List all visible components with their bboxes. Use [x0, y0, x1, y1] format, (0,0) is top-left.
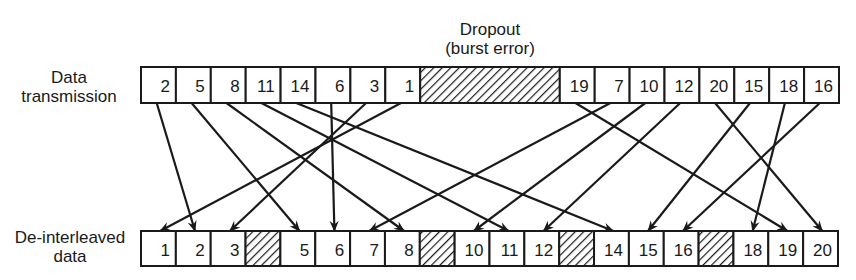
top-cell-value: 5 — [195, 77, 204, 96]
top-cell — [316, 67, 351, 103]
mapping-arrow-8 — [227, 103, 405, 231]
bottom-cell-value: 1 — [160, 241, 169, 260]
top-cell — [595, 67, 630, 103]
top-cell — [176, 67, 211, 103]
bottom-cell-value: 14 — [604, 241, 623, 260]
top-cell-value: 19 — [570, 77, 589, 96]
bottom-cell — [141, 231, 176, 266]
mapping-arrow-2 — [157, 103, 195, 231]
bottom-cell — [315, 231, 350, 266]
bottom-cell — [385, 231, 420, 266]
bottom-cell-value: 20 — [813, 241, 832, 260]
top-cell-value: 12 — [674, 77, 693, 96]
mapping-arrow-7 — [369, 103, 610, 231]
interleave-diagram: 2581114631197101220151816 12356781011121… — [0, 0, 856, 280]
mapping-arrow-14 — [296, 103, 613, 231]
mapping-arrow-20 — [715, 103, 822, 231]
bottom-cell-value: 12 — [534, 241, 553, 260]
bottom-cell-value: 11 — [501, 241, 519, 260]
mapping-arrow-10 — [474, 103, 645, 231]
top-cell-value: 7 — [614, 77, 623, 96]
top-cell-value: 16 — [814, 77, 833, 96]
mapping-arrows — [157, 103, 823, 231]
top-cell-value: 8 — [230, 77, 239, 96]
top-cell — [385, 67, 420, 103]
top-cell — [211, 67, 246, 103]
top-cell-value: 3 — [370, 77, 379, 96]
mapping-arrow-6 — [331, 103, 334, 231]
mapping-arrow-5 — [192, 103, 300, 231]
bottom-cell-value: 2 — [195, 241, 204, 260]
top-cell-value: 18 — [779, 77, 798, 96]
bottom-cell — [350, 231, 385, 266]
data-transmission-row: 2581114631197101220151816 — [141, 67, 839, 103]
mapping-arrow-1 — [160, 103, 401, 231]
top-cell-value: 10 — [640, 77, 659, 96]
bottom-cell-value: 19 — [778, 241, 797, 260]
top-cell-value: 14 — [291, 77, 310, 96]
mapping-arrow-19 — [576, 103, 788, 231]
bottom-cell-value: 10 — [465, 241, 484, 260]
top-cell-value: 2 — [160, 77, 169, 96]
top-cell — [141, 67, 176, 103]
de-interleaved-row: 1235678101112141516181920 — [141, 231, 838, 266]
mapping-arrow-16 — [683, 103, 820, 231]
top-cell-value: 20 — [709, 77, 728, 96]
bottom-cell — [280, 231, 315, 266]
bottom-cell-value: 16 — [674, 241, 693, 260]
bottom-cell — [176, 231, 211, 266]
top-cell-value: 11 — [257, 77, 275, 96]
top-cell — [350, 67, 385, 103]
bottom-cell-value: 15 — [639, 241, 658, 260]
top-cell-value: 15 — [744, 77, 763, 96]
bottom-dropout-cell — [420, 231, 455, 266]
bottom-cell-value: 8 — [404, 241, 413, 260]
bottom-dropout-cell — [246, 231, 281, 266]
bottom-cell-value: 6 — [335, 241, 344, 260]
top-dropout-cell — [420, 67, 560, 103]
bottom-cell-value: 5 — [300, 241, 309, 260]
mapping-arrow-15 — [648, 103, 750, 231]
bottom-cell-value: 7 — [369, 241, 378, 260]
bottom-cell-value: 18 — [743, 241, 762, 260]
top-cell-value: 6 — [335, 77, 344, 96]
bottom-dropout-cell — [699, 231, 734, 266]
top-cell-value: 1 — [405, 77, 414, 96]
bottom-dropout-cell — [559, 231, 594, 266]
bottom-cell-value: 3 — [230, 241, 239, 260]
bottom-cell — [211, 231, 246, 266]
